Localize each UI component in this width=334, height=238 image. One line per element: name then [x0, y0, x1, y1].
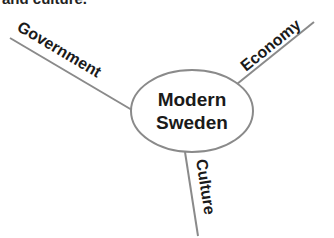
center-label-line2: Sweden	[156, 112, 228, 133]
center-ellipse	[131, 70, 253, 152]
concept-web-diagram: Modern Sweden Government Economy Culture	[0, 0, 334, 238]
economy-label: Economy	[237, 16, 304, 75]
center-label-line1: Modern	[158, 89, 227, 110]
culture-label: Culture	[193, 158, 219, 216]
